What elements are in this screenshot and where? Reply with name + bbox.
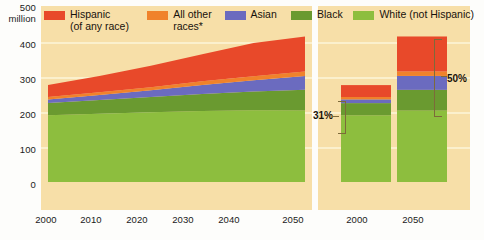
x-tick-2000: 2000: [26, 214, 66, 225]
legend-item-asian: Asian: [225, 8, 291, 20]
bracket-31-percent: [338, 101, 346, 134]
legend-label-asian: Asian: [251, 8, 277, 20]
bar-2050-segment-white-not-hispanic: [397, 111, 447, 182]
x-tick-2030: 2030: [163, 214, 203, 225]
bracket-tick-31-percent: [332, 116, 339, 117]
legend-item-black: Black: [291, 8, 353, 20]
x-tick-bar-2050: 2050: [393, 214, 433, 225]
bar-2000-segment-asian: [341, 99, 391, 103]
x-tick-2010: 2010: [71, 214, 111, 225]
annotation-50-percent: 50%: [447, 73, 467, 84]
bracket-tick-50-percent: [441, 76, 447, 77]
legend-label-black: Black: [317, 8, 343, 20]
y-axis-unit-label: million: [8, 13, 36, 24]
y-tick-0: 0: [31, 179, 36, 190]
legend-swatch-all-other-races: [147, 11, 168, 20]
y-tick-300: 300: [20, 74, 36, 85]
legend-swatch-white-not-hispanic: [353, 11, 374, 20]
legend-label-all-other-races-line1: All other: [173, 8, 212, 20]
legend-swatch-hispanic: [44, 11, 65, 20]
legend-label-all-other-races-line2: races*: [173, 20, 212, 32]
bar-2000-segment-black: [341, 103, 391, 115]
x-tick-2040: 2040: [209, 214, 249, 225]
area-series-white-not-hispanic: [48, 110, 305, 182]
bar-2000-segment-all-other-races: [341, 97, 391, 99]
legend: Hispanic (of any race) All other races* …: [44, 8, 474, 36]
legend-label-hispanic-line1: Hispanic: [70, 8, 129, 20]
x-tick-2050: 2050: [273, 214, 313, 225]
legend-item-all-other-races: All other races*: [147, 8, 224, 32]
x-tick-2020: 2020: [117, 214, 157, 225]
legend-label-hispanic: Hispanic (of any race): [70, 8, 129, 32]
chart-root: 500 million 400 300 200 100 0 Hispanic (…: [0, 0, 484, 240]
x-tick-bar-2000: 2000: [337, 214, 377, 225]
y-tick-400: 400: [20, 39, 36, 50]
legend-label-all-other-races: All other races*: [173, 8, 212, 32]
legend-swatch-black: [291, 11, 312, 20]
y-axis: 500 million 400 300 200 100 0: [0, 0, 41, 214]
bar-2000-segment-hispanic-of-any-race: [341, 85, 391, 97]
y-tick-500: 500: [20, 2, 36, 13]
annotation-31-percent: 31%: [313, 110, 333, 121]
bar-2000-segment-white-not-hispanic: [341, 115, 391, 182]
y-tick-200: 200: [20, 109, 36, 120]
area-chart-plot: [41, 6, 312, 210]
bracket-50-percent: [434, 39, 442, 117]
legend-label-white-not-hispanic: White (not Hispanic): [379, 8, 474, 20]
legend-item-white-not-hispanic: White (not Hispanic): [353, 8, 474, 20]
legend-swatch-asian: [225, 11, 246, 20]
y-tick-100: 100: [20, 144, 36, 155]
legend-label-hispanic-line2: (of any race): [70, 20, 129, 32]
legend-item-hispanic: Hispanic (of any race): [44, 8, 147, 32]
